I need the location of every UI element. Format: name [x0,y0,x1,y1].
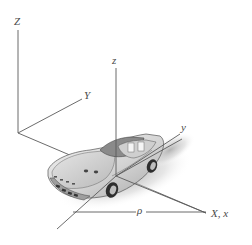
z-axis-label: z [112,55,116,66]
Z-axis-label: Z [14,16,20,27]
y-axis-label: y [181,122,186,133]
Y-axis-label: Y [84,90,90,101]
hood-vent [94,171,98,174]
rho-label: ρ [137,205,142,216]
seat [128,143,134,152]
Y-axis-line [18,99,82,133]
seat [138,142,144,151]
X-x-axis-label: X, x [211,208,228,219]
hood-vent [84,170,88,173]
